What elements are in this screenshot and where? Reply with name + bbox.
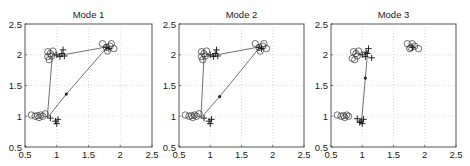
y-tick-label: 1.5: [163, 80, 176, 91]
y-tick-label: 1.5: [315, 80, 328, 91]
x-tick-label: 2: [118, 149, 123, 160]
y-tick-label: 0.5: [9, 142, 22, 153]
star-marker: [364, 77, 367, 80]
x-tick-label: 2: [422, 149, 427, 160]
subplot-mode-1: 0.511.522.50.511.522.5Mode 1: [9, 9, 159, 160]
figure: 0.511.522.50.511.522.5Mode 1 0.511.522.5…: [0, 0, 470, 166]
x-tick-label: 2.5: [297, 149, 310, 160]
x-tick-label: 1.5: [387, 149, 400, 160]
star-marker: [65, 93, 68, 96]
y-tick-label: 1.5: [9, 80, 22, 91]
subplot-mode-2: 0.511.522.50.511.522.5Mode 2: [163, 9, 311, 160]
y-tick-label: 2.5: [163, 19, 176, 30]
x-tick-label: 2.5: [449, 149, 462, 160]
x-tick-label: 1: [54, 149, 59, 160]
subplot-mode-3: 0.511.522.50.511.522.5Mode 3: [315, 9, 463, 160]
star-marker: [218, 95, 221, 98]
x-tick-label: 2.5: [145, 149, 158, 160]
y-tick-label: 1: [171, 111, 176, 122]
subplot-title: Mode 1: [73, 9, 105, 20]
y-tick-label: 1: [17, 111, 22, 122]
y-tick-label: 2.5: [9, 19, 22, 30]
y-tick-label: 1: [323, 111, 328, 122]
y-tick-label: 0.5: [315, 142, 328, 153]
y-tick-label: 0.5: [163, 142, 176, 153]
y-tick-label: 2: [17, 49, 22, 60]
subplot-title: Mode 2: [226, 9, 258, 20]
x-tick-label: 1: [208, 149, 213, 160]
x-tick-label: 1.5: [235, 149, 248, 160]
subplot-title: Mode 3: [378, 9, 410, 20]
x-tick-label: 1: [360, 149, 365, 160]
y-tick-label: 2: [323, 49, 328, 60]
x-tick-label: 2: [270, 149, 275, 160]
y-tick-label: 2: [171, 49, 176, 60]
y-tick-label: 2.5: [315, 19, 328, 30]
x-tick-label: 1.5: [82, 149, 95, 160]
